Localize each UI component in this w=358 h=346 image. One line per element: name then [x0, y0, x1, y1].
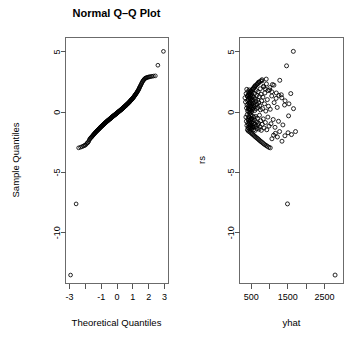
x-axis-title-left: Theoretical Quantiles: [72, 317, 162, 328]
y-axis-title-right: rs: [196, 156, 207, 164]
x-axis-tick-label: 0: [114, 292, 119, 302]
x-axis-tick-label: -1: [97, 292, 105, 302]
y-axis-title-left: Sample Quantiles: [10, 122, 21, 197]
x-axis-tick-label: 1500: [278, 292, 298, 302]
y-axis-tick-label: -10: [226, 226, 236, 239]
panel-title-left: Normal Q–Q Plot: [72, 7, 160, 19]
y-axis-tick-label: 5: [226, 49, 236, 54]
y-axis-tick-label: -5: [52, 169, 62, 177]
x-axis-tick-label: 1: [130, 292, 135, 302]
x-axis-tick-label: 2: [146, 292, 151, 302]
y-axis-tick-label: -10: [52, 226, 62, 239]
plot-area-border-right: [240, 38, 344, 284]
x-axis-tick-label: 2500: [314, 292, 334, 302]
y-axis-tick-label: 0: [52, 110, 62, 115]
y-axis-tick-label: 5: [52, 49, 62, 54]
x-axis-tick-label: 3: [162, 292, 167, 302]
x-axis-title-right: yhat: [283, 317, 301, 328]
y-axis-tick-label: 0: [226, 110, 236, 115]
x-axis-tick-label: -3: [65, 292, 73, 302]
figure-canvas: Normal Q–Q Plot 50-5-10 -3-10123 Theoret…: [0, 0, 358, 346]
x-axis-tick-label: 500: [244, 292, 259, 302]
y-axis-tick-label: -5: [226, 169, 236, 177]
plot-figure-svg: Normal Q–Q Plot 50-5-10 -3-10123 Theoret…: [0, 0, 358, 346]
x-axis-tick-labels-right: 50015002500: [244, 292, 335, 302]
